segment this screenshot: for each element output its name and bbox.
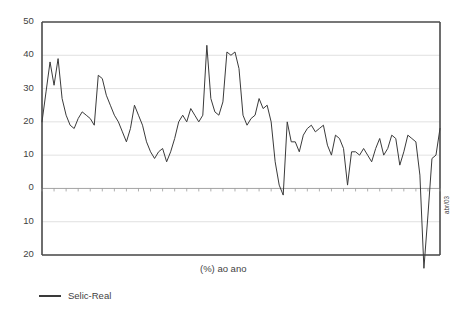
plot-background	[42, 22, 440, 255]
x-axis-title: (%) ao ano	[200, 263, 246, 274]
legend-line-swatch	[39, 295, 61, 297]
chart-container: 504030201001020 jan/95abr/95jul/95out/95…	[0, 0, 458, 321]
legend-label-selic-real: Selic-Real	[68, 290, 111, 301]
